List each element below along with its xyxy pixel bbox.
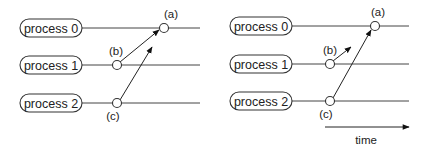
causality-diagram: process 0 process 1 process 2 (a) (b) (c… [0, 0, 428, 151]
process-box-0: process 0 [20, 19, 82, 37]
process-box-0: process 0 [230, 17, 292, 35]
event-label-a: (a) [371, 6, 385, 18]
time-label: time [355, 134, 377, 146]
event-label-b: (b) [323, 44, 337, 56]
process-label: process 2 [234, 95, 288, 109]
process-box-1: process 1 [230, 55, 292, 73]
event-label-a: (a) [164, 8, 178, 20]
right-panel: process 0 process 1 process 2 (a) (b) (c… [230, 6, 409, 146]
message-b-to-a [120, 30, 159, 62]
process-label: process 1 [24, 59, 78, 73]
process-label: process 0 [24, 22, 78, 36]
event-label-c: (c) [319, 108, 333, 120]
process-label: process 2 [24, 97, 78, 111]
event-node-c [326, 97, 335, 106]
process-label: process 1 [234, 58, 288, 72]
event-node-a [371, 22, 380, 31]
left-panel: process 0 process 1 process 2 (a) (b) (c… [20, 8, 200, 122]
event-node-a [160, 24, 169, 33]
event-node-b [113, 61, 122, 70]
process-box-2: process 2 [20, 94, 82, 112]
process-box-1: process 1 [20, 56, 82, 74]
message-c-in-transit [120, 47, 152, 100]
event-node-b [326, 60, 335, 69]
process-label: process 0 [234, 20, 288, 34]
event-label-c: (c) [106, 110, 120, 122]
process-box-2: process 2 [230, 92, 292, 110]
event-node-c [113, 99, 122, 108]
event-label-b: (b) [109, 45, 123, 57]
